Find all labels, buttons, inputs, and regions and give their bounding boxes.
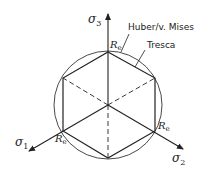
re-label-right: Re [157,120,170,133]
mises-label: Huber/v. Mises [128,22,194,32]
sigma3-label: σ3 [88,12,101,28]
sigma1-axis [29,105,108,151]
re-label-left: Re [54,133,67,146]
dashed-line-upper-left [63,78,108,105]
mises-leader-line [121,34,129,52]
yield-surface-diagram: σ3 σ1 σ2 Re Re Re Huber/v. Mises Tresca [0,0,209,173]
sigma2-label: σ2 [172,151,185,167]
tresca-label: Tresca [146,40,175,50]
sigma2-axis [108,105,183,149]
dashed-line-upper-right [108,78,155,105]
sigma1-label: σ1 [15,135,28,151]
re-label-top: Re [109,39,122,52]
